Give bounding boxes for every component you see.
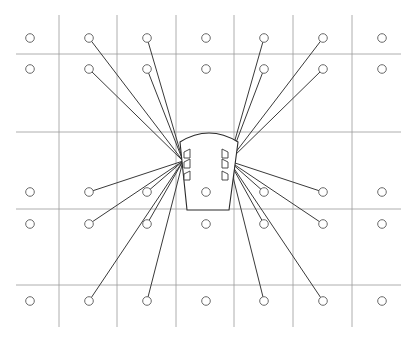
node-r4-c4	[202, 220, 211, 229]
node-r2-c5	[260, 65, 269, 74]
node-r2-c1	[26, 65, 35, 74]
link-right-r5-c6	[229, 161, 323, 301]
node-r2-c6	[319, 65, 328, 74]
node-r1-c2	[85, 34, 94, 43]
node-r4-c6	[319, 220, 328, 229]
node-r4-c3	[143, 220, 152, 229]
node-r3-c1	[26, 188, 35, 197]
node-r5-c3	[143, 297, 152, 306]
node-r3-c5	[260, 188, 269, 197]
node-r2-c4	[202, 65, 211, 74]
node-r1-c1	[26, 34, 35, 43]
node-r2-c3	[143, 65, 152, 74]
node-r4-c7	[378, 220, 387, 229]
node-r1-c3	[143, 34, 152, 43]
link-left-r4-c3	[147, 161, 183, 224]
link-left-r1-c3	[147, 38, 183, 161]
node-r3-c4	[202, 188, 211, 197]
cable-diagram	[0, 0, 417, 344]
link-left-r2-c2	[89, 69, 183, 161]
link-right-r4-c6	[229, 161, 323, 224]
node-r3-c7	[378, 188, 387, 197]
node-r3-c6	[319, 188, 328, 197]
node-r4-c2	[85, 220, 94, 229]
node-r5-c6	[319, 297, 328, 306]
link-right-r2-c6	[229, 69, 323, 161]
node-r1-c5	[260, 34, 269, 43]
node-r1-c7	[378, 34, 387, 43]
node-r1-c4	[202, 34, 211, 43]
link-right-r1-c6	[229, 38, 323, 161]
node-r3-c2	[85, 188, 94, 197]
link-left-r2-c3	[147, 69, 183, 161]
node-r2-c2	[85, 65, 94, 74]
node-r3-c3	[143, 188, 152, 197]
link-left-r3-c2	[89, 161, 183, 192]
node-r5-c2	[85, 297, 94, 306]
node-r4-c5	[260, 220, 269, 229]
node-r5-c4	[202, 297, 211, 306]
link-left-r1-c2	[89, 38, 183, 161]
node-r5-c1	[26, 297, 35, 306]
node-r5-c7	[378, 297, 387, 306]
node-r2-c7	[378, 65, 387, 74]
node-r5-c5	[260, 297, 269, 306]
node-r1-c6	[319, 34, 328, 43]
node-r4-c1	[26, 220, 35, 229]
link-left-r5-c2	[89, 161, 183, 301]
hub	[180, 133, 238, 210]
